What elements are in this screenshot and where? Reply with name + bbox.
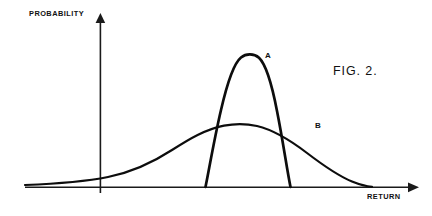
curve-b-label: B (315, 122, 321, 130)
figure-drawing (0, 0, 432, 216)
y-axis-group (96, 13, 106, 193)
figure-caption: FIG. 2. (333, 65, 378, 78)
y-axis-arrow-icon (96, 13, 106, 23)
patent-figure-canvas: PROBABILITY RETURN FIG. 2. A B (0, 0, 432, 216)
curve-a-label: A (265, 52, 271, 60)
y-axis-label: PROBABILITY (29, 10, 84, 17)
x-axis-label: RETURN (367, 193, 401, 200)
x-axis-arrow-icon (408, 182, 419, 192)
curve-a-path (206, 54, 291, 187)
curve-b-path (25, 124, 372, 187)
